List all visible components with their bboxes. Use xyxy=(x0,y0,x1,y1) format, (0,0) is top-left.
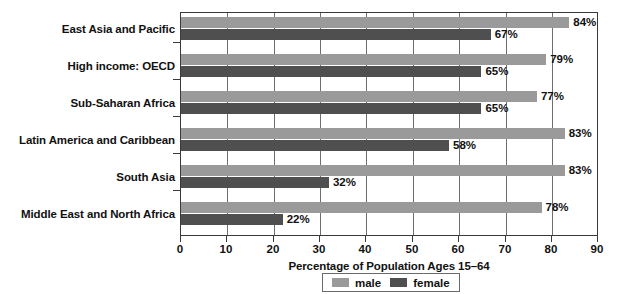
value-label-female-0: 67% xyxy=(491,28,518,41)
x-axis-tick xyxy=(505,236,506,242)
bar-female-4 xyxy=(181,177,329,188)
bar-female-1 xyxy=(181,66,481,77)
value-label-female-5: 22% xyxy=(283,213,310,226)
bar-female-5 xyxy=(181,214,283,225)
value-label-male-0: 84% xyxy=(569,16,596,29)
y-axis-tick xyxy=(173,153,180,154)
category-label-0: East Asia and Pacific xyxy=(0,23,175,35)
x-tick-label-2: 20 xyxy=(253,243,293,255)
x-axis-tick xyxy=(180,236,181,242)
value-label-female-3: 58% xyxy=(449,139,476,152)
bar-male-3 xyxy=(181,128,565,139)
category-label-2: Sub-Saharan Africa xyxy=(0,97,175,109)
value-label-male-2: 77% xyxy=(537,90,564,103)
value-label-female-4: 32% xyxy=(329,176,356,189)
x-tick-label-5: 50 xyxy=(392,243,432,255)
category-label-3: Latin America and Caribbean xyxy=(0,134,175,146)
y-axis-tick xyxy=(173,116,180,117)
y-axis-tick xyxy=(173,42,180,43)
value-label-female-2: 65% xyxy=(481,102,508,115)
legend-item-male: male xyxy=(332,277,381,289)
x-tick-label-4: 40 xyxy=(345,243,385,255)
bar-female-0 xyxy=(181,29,491,40)
value-label-male-3: 83% xyxy=(565,127,592,140)
plot-area: 84% 67% 79% 65% 77% 65% 83% 58% 83% 32% … xyxy=(180,12,598,236)
x-tick-label-8: 80 xyxy=(531,243,571,255)
x-axis-tick xyxy=(365,236,366,242)
x-axis-tick xyxy=(273,236,274,242)
bar-male-1 xyxy=(181,54,546,65)
category-label-4: South Asia xyxy=(0,171,175,183)
y-axis-tick xyxy=(173,190,180,191)
x-tick-label-6: 60 xyxy=(438,243,478,255)
legend-item-female: female xyxy=(390,277,449,289)
x-tick-label-1: 10 xyxy=(206,243,246,255)
chart-legend: male female xyxy=(322,273,460,292)
x-tick-label-9: 90 xyxy=(577,243,617,255)
x-tick-label-3: 30 xyxy=(299,243,339,255)
value-label-female-1: 65% xyxy=(481,65,508,78)
bar-female-3 xyxy=(181,140,449,151)
legend-label-male: male xyxy=(355,277,381,289)
bar-male-0 xyxy=(181,17,569,28)
x-axis-tick xyxy=(597,236,598,242)
bar-male-2 xyxy=(181,91,537,102)
bar-male-5 xyxy=(181,202,542,213)
value-label-male-4: 83% xyxy=(565,164,592,177)
x-axis-tick xyxy=(412,236,413,242)
legend-label-female: female xyxy=(413,277,449,289)
x-axis-title: Percentage of Population Ages 15–64 xyxy=(180,260,598,272)
x-axis-tick xyxy=(319,236,320,242)
value-label-male-1: 79% xyxy=(546,53,573,66)
y-axis-tick xyxy=(173,79,180,80)
x-axis-tick xyxy=(551,236,552,242)
x-tick-label-7: 70 xyxy=(485,243,525,255)
category-label-1: High income: OECD xyxy=(0,60,175,72)
bar-chart: East Asia and Pacific High income: OECD … xyxy=(0,0,619,294)
legend-swatch-male-icon xyxy=(332,278,349,287)
category-label-5: Middle East and North Africa xyxy=(0,208,175,220)
bar-female-2 xyxy=(181,103,481,114)
x-tick-label-0: 0 xyxy=(160,243,200,255)
bar-male-4 xyxy=(181,165,565,176)
x-axis-tick xyxy=(458,236,459,242)
legend-swatch-female-icon xyxy=(390,278,407,287)
value-label-male-5: 78% xyxy=(542,201,569,214)
x-axis-tick xyxy=(226,236,227,242)
